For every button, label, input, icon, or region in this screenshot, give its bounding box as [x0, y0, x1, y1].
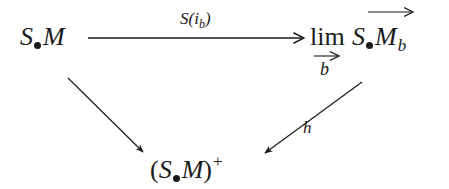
source-symbol: S	[20, 22, 33, 51]
lim-index: b	[320, 60, 329, 78]
node-colimit-term: SMb	[352, 24, 406, 54]
label-top-arrow: S(ib)	[180, 10, 211, 30]
bullet-dot	[366, 42, 373, 49]
target-object: M	[182, 155, 204, 184]
target-close-paren: )	[203, 155, 212, 184]
label-top-main: S(i	[180, 9, 199, 28]
target-open-paren: (	[150, 155, 159, 184]
node-source: SM	[20, 24, 65, 50]
node-target: (SM)+	[150, 153, 223, 183]
label-h: h	[303, 119, 312, 136]
bullet-dot	[173, 175, 180, 182]
colimit-subscript: b	[398, 36, 407, 55]
source-object: M	[43, 22, 65, 51]
label-top-close: )	[205, 9, 211, 28]
target-symbol: S	[159, 155, 172, 184]
colimit-object: M	[375, 22, 397, 51]
arrow-left-diagonal	[68, 78, 143, 152]
arrow-right-diagonal	[265, 82, 362, 153]
bullet-dot	[34, 42, 41, 49]
lim-operator: lim	[310, 22, 345, 51]
target-superscript: +	[213, 152, 223, 171]
colimit-symbol: S	[352, 22, 365, 51]
node-colimit-lim: lim	[310, 24, 345, 50]
